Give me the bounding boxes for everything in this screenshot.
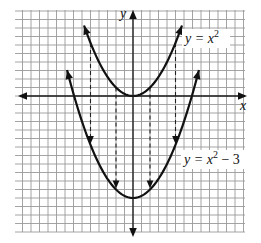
curve-end-arrow-icon [83, 25, 90, 35]
equation-text: y = x [182, 152, 214, 167]
equation-label-y-equals-x-squared: y = x2 [183, 28, 219, 46]
y-axis-label: y [118, 6, 127, 21]
graph-figure: x y y = x2y = x2 − 3 [0, 0, 261, 243]
y-axis-arrow-down-icon [129, 228, 137, 237]
x-axis-label: x [239, 98, 247, 113]
equation-exponent: 2 [214, 28, 219, 39]
equation-label-y-equals-x-squared-minus-3: y = x2 − 3 [182, 149, 240, 167]
curve-end-arrow-icon [175, 25, 182, 35]
equation-text: y = x [183, 31, 215, 46]
equation-shift: − 3 [218, 152, 240, 167]
